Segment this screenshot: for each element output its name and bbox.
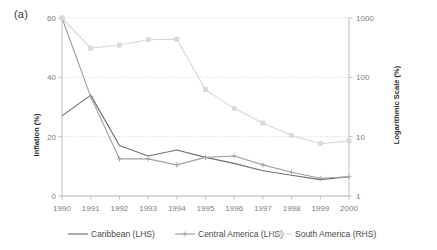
- legend-marker: [182, 231, 187, 236]
- series-south-america-rhs: [60, 16, 351, 146]
- y-axis-title: Inflation (%): [32, 113, 41, 156]
- data-point-marker: [117, 43, 121, 47]
- x-tick-label: 1995: [197, 204, 215, 213]
- data-point-marker: [347, 139, 351, 143]
- left-tick-label: 60: [47, 14, 56, 23]
- inflation-line-chart: 0204060110100100019901991199219931994199…: [0, 0, 437, 250]
- data-point-marker: [290, 133, 294, 137]
- x-axis-ticks: 1990199119921993199419951996199719981999…: [53, 196, 358, 213]
- x-tick-label: 1999: [311, 204, 329, 213]
- data-point-marker: [203, 88, 207, 92]
- left-axis-ticks: 0204060: [47, 14, 62, 201]
- x-tick-label: 1990: [53, 204, 71, 213]
- data-point-marker: [318, 142, 322, 146]
- left-tick-label: 20: [47, 133, 56, 142]
- right-tick-label: 100: [356, 73, 370, 82]
- x-tick-label: 1994: [168, 204, 186, 213]
- x-tick-label: 1998: [283, 204, 301, 213]
- data-point-marker: [260, 162, 265, 167]
- data-point-marker: [346, 174, 351, 179]
- data-point-marker: [146, 156, 151, 161]
- data-point-marker: [146, 38, 150, 42]
- right-tick-label: 10: [356, 133, 365, 142]
- x-tick-label: 1997: [254, 204, 272, 213]
- x-tick-label: 2000: [340, 204, 358, 213]
- legend-item-label: Caribbean (LHS): [91, 229, 155, 239]
- left-tick-label: 0: [52, 192, 57, 201]
- legend-item-label: Central America (LHS): [198, 229, 283, 239]
- left-tick-label: 40: [47, 73, 56, 82]
- data-point-marker: [174, 162, 179, 167]
- chart-figure: (a) 020406011010010001990199119921993199…: [0, 0, 437, 250]
- x-tick-label: 1992: [111, 204, 129, 213]
- series-caribbean-lhs: [62, 95, 349, 180]
- data-point-marker: [89, 46, 93, 50]
- legend: Caribbean (LHS)Central America (LHS)Sout…: [68, 229, 376, 239]
- gridlines: [62, 18, 349, 196]
- x-tick-label: 1991: [82, 204, 100, 213]
- data-point-marker: [261, 121, 265, 125]
- x-tick-label: 1993: [139, 204, 157, 213]
- x-tick-label: 1996: [225, 204, 243, 213]
- data-point-marker: [289, 170, 294, 175]
- series-line: [62, 18, 349, 178]
- y2-axis-title: Logarithmic Scale (%): [392, 65, 401, 144]
- data-point-marker: [60, 16, 64, 20]
- series-line: [62, 95, 349, 180]
- series-central-america-lhs: [59, 15, 351, 180]
- right-tick-label: 1: [356, 192, 361, 201]
- panel-label: (a): [14, 8, 28, 20]
- data-point-marker: [232, 106, 236, 110]
- data-point-marker: [175, 37, 179, 41]
- series-group: [59, 15, 351, 180]
- data-point-marker: [232, 153, 237, 158]
- data-point-marker: [203, 155, 208, 160]
- axes: [62, 18, 349, 196]
- right-tick-label: 1000: [356, 14, 374, 23]
- data-point-marker: [117, 156, 122, 161]
- legend-marker: [280, 232, 284, 236]
- right-axis-ticks: 1101001000: [349, 14, 374, 201]
- series-line: [62, 18, 349, 144]
- legend-item-label: South America (RHS): [295, 229, 376, 239]
